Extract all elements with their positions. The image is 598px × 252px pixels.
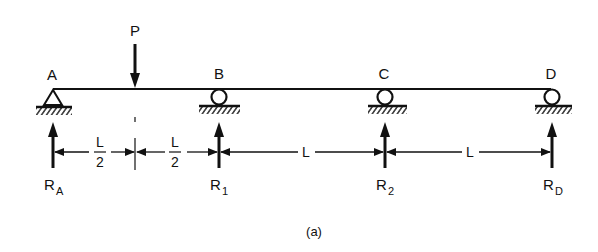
reaction-subscript: D bbox=[555, 185, 563, 197]
beam-diagram: A B C D P bbox=[0, 0, 598, 252]
dimension-p-to-b: L 2 bbox=[137, 134, 217, 170]
reaction-main: R bbox=[210, 176, 221, 193]
roller-support-b bbox=[199, 90, 240, 115]
dimension-label: L bbox=[302, 144, 310, 160]
pin-support-a bbox=[36, 90, 72, 115]
reaction-main: R bbox=[376, 176, 387, 193]
dimension-b-to-c: L bbox=[221, 144, 383, 160]
dimension-label-num: L bbox=[96, 134, 104, 150]
dimension-c-to-d: L bbox=[387, 144, 550, 160]
reaction-subscript: 2 bbox=[388, 185, 394, 197]
dimension-label-num: L bbox=[171, 134, 179, 150]
reaction-subscript: 1 bbox=[222, 185, 228, 197]
point-label-b: B bbox=[214, 65, 224, 82]
reaction-main: R bbox=[44, 176, 55, 193]
load-label: P bbox=[130, 22, 140, 39]
point-label-a: A bbox=[47, 66, 57, 83]
reaction-label-1: R 1 bbox=[210, 176, 228, 197]
point-label-c: C bbox=[379, 65, 390, 82]
reaction-subscript: A bbox=[56, 185, 64, 197]
figure-caption: (a) bbox=[306, 224, 322, 239]
reaction-label-a: R A bbox=[44, 176, 64, 197]
reaction-main: R bbox=[543, 176, 554, 193]
dimension-label-den: 2 bbox=[171, 154, 179, 170]
dimension-label-den: 2 bbox=[96, 154, 104, 170]
roller-support-d bbox=[535, 90, 572, 115]
reaction-label-2: R 2 bbox=[376, 176, 394, 197]
reaction-arrow-a bbox=[48, 122, 58, 168]
dimension-label: L bbox=[466, 144, 474, 160]
reaction-arrow-d bbox=[547, 122, 557, 168]
roller-support-c bbox=[368, 90, 407, 115]
load-arrow bbox=[130, 44, 140, 88]
reaction-arrow-1 bbox=[214, 122, 224, 168]
dimension-a-to-p: L 2 bbox=[55, 134, 134, 170]
reaction-label-d: R D bbox=[543, 176, 563, 197]
reaction-arrow-2 bbox=[380, 122, 390, 168]
point-label-d: D bbox=[546, 65, 557, 82]
